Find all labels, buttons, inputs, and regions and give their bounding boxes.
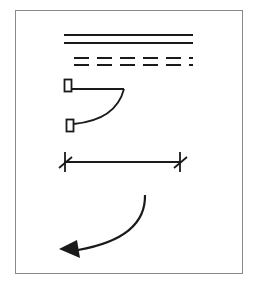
diagram-frame [16,11,243,274]
symbols-diagram [0,0,253,283]
hinge-jamb-bottom [67,120,74,132]
hinge-jamb-top [65,80,72,92]
